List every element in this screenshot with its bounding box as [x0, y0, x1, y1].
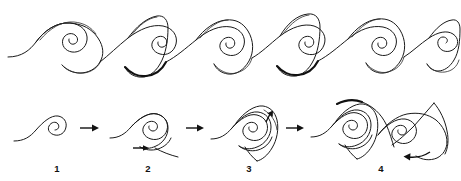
- step-3-label: 3: [246, 163, 251, 174]
- step-1-drawing: [14, 116, 66, 141]
- step-3-drawing: [211, 106, 278, 161]
- wave-unit-3: [166, 20, 253, 74]
- connector-arrow-2: [186, 124, 204, 131]
- arrow-right-icon: [186, 124, 204, 131]
- wave-unit-1: [8, 22, 103, 73]
- connector-arrow-1: [80, 124, 99, 131]
- construction-sequence-panel: 1 2: [14, 100, 448, 174]
- arrow-right-icon: [80, 124, 99, 131]
- figure-canvas: Spiral wave motif construction diagram: [0, 0, 461, 181]
- wave-border-panel: [8, 14, 460, 77]
- step-4-label: 4: [378, 163, 384, 174]
- wave-unit-2: [100, 16, 176, 77]
- step-2-label: 2: [145, 163, 150, 174]
- wave-unit-5: [318, 19, 405, 73]
- arrow-right-icon: [286, 124, 304, 131]
- step-4-drawing: [311, 100, 448, 160]
- step-2-drawing: [110, 114, 178, 157]
- spiral-wave-diagram-svg: Spiral wave motif construction diagram: [0, 0, 461, 181]
- connector-arrow-3: [286, 124, 304, 131]
- wave-unit-6: [404, 20, 460, 72]
- step-1-label: 1: [54, 163, 60, 174]
- wave-unit-4: [252, 14, 325, 76]
